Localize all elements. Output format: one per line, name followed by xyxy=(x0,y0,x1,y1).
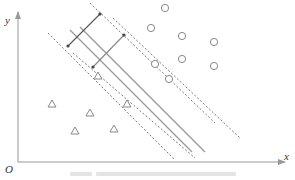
circle-point-icon xyxy=(178,32,185,39)
margin-arrow-b xyxy=(93,35,124,67)
triangle-point-icon xyxy=(110,125,118,132)
circle-point-icon xyxy=(210,62,217,69)
positive-class-points xyxy=(147,4,217,82)
origin-label: O xyxy=(5,163,13,175)
triangle-point-icon xyxy=(48,100,56,107)
arrow-endpoint xyxy=(91,65,94,68)
margin-arrow-a xyxy=(68,14,100,46)
hyperplane-a xyxy=(70,30,192,152)
negative-class-points xyxy=(48,72,131,134)
circle-point-icon xyxy=(210,38,217,45)
circle-point-icon xyxy=(161,4,168,11)
x-axis-label: x xyxy=(284,150,289,162)
triangle-point-icon xyxy=(123,100,131,107)
circle-point-icon xyxy=(147,24,154,31)
triangle-point-icon xyxy=(86,109,94,116)
margin-b-lower xyxy=(73,53,195,158)
arrow-endpoint xyxy=(98,12,101,15)
figure-caption xyxy=(70,171,240,176)
svm-diagram xyxy=(0,0,295,180)
margin-a-lower xyxy=(48,33,175,160)
margin-b-upper xyxy=(113,18,240,138)
margin-lines xyxy=(48,3,240,160)
hyperplanes xyxy=(70,27,205,152)
triangle-point-icon xyxy=(94,72,102,79)
circle-point-icon xyxy=(165,75,172,82)
arrow-endpoint xyxy=(122,33,125,36)
triangle-point-icon xyxy=(71,127,79,134)
circle-point-icon xyxy=(178,55,185,62)
circle-point-icon xyxy=(151,60,158,67)
caption-fragment xyxy=(70,172,92,176)
axes xyxy=(18,12,285,162)
y-axis-label: y xyxy=(5,14,10,26)
caption-fragment xyxy=(96,172,236,176)
arrow-endpoint xyxy=(66,44,69,47)
